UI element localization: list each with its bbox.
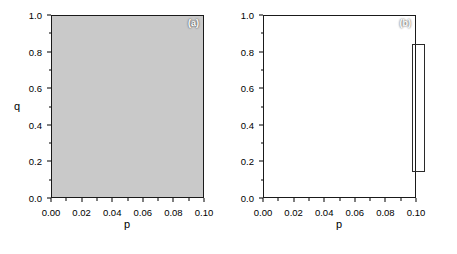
y-tick-minor — [261, 179, 264, 180]
panel-a-contour-map — [52, 16, 203, 197]
x-tick-label: 0.02 — [72, 202, 91, 218]
y-tick-mark — [259, 124, 263, 125]
x-tick-minor — [158, 198, 159, 201]
x-tick-label: 0.06 — [346, 202, 365, 218]
x-tick-minor — [308, 198, 309, 201]
y-tick-label: 0.2 — [0, 156, 42, 167]
y-tick-label: 0.6 — [0, 83, 42, 94]
x-tick-minor — [339, 198, 340, 201]
panel-b-contour-map — [264, 16, 415, 197]
y-tick-mark — [47, 15, 51, 16]
y-tick-mark — [47, 88, 51, 89]
x-tick-label: 0.04 — [103, 202, 122, 218]
y-tick-label: 0.8 — [212, 46, 254, 57]
y-tick-label: 1.0 — [0, 10, 42, 21]
y-tick-mark — [259, 161, 263, 162]
y-tick-minor — [49, 69, 52, 70]
x-tick-label: 0.00 — [254, 202, 273, 218]
panel-a-plot-area: (a) — [51, 15, 204, 198]
y-tick-minor — [261, 33, 264, 34]
y-tick-label: 0.2 — [212, 156, 254, 167]
y-tick-minor — [49, 106, 52, 107]
colorbar — [412, 44, 425, 172]
y-tick-minor — [49, 143, 52, 144]
y-tick-minor — [261, 143, 264, 144]
x-tick-label: 0.08 — [164, 202, 183, 218]
x-tick-label: 0.08 — [376, 202, 395, 218]
y-tick-minor — [49, 33, 52, 34]
colorbar-gradient — [412, 44, 425, 172]
y-tick-mark — [47, 161, 51, 162]
x-tick-minor — [370, 198, 371, 201]
y-tick-label: 0.0 — [212, 193, 254, 204]
x-tick-label: 0.10 — [195, 202, 214, 218]
y-tick-label: 0.4 — [212, 119, 254, 130]
panel-b-x-axis-label: p — [336, 218, 342, 230]
x-tick-minor — [96, 198, 97, 201]
y-tick-label: 0.8 — [0, 46, 42, 57]
panel-b: (b) 0.00.20.40.60.81.0 0.000.020.040.060… — [212, 0, 427, 254]
y-tick-minor — [49, 179, 52, 180]
x-tick-minor — [188, 198, 189, 201]
y-tick-mark — [259, 51, 263, 52]
y-tick-label: 0.4 — [0, 119, 42, 130]
x-tick-label: 0.04 — [315, 202, 334, 218]
y-tick-mark — [47, 51, 51, 52]
panel-b-tag: (b) — [400, 18, 412, 28]
x-tick-minor — [127, 198, 128, 201]
x-tick-minor — [278, 198, 279, 201]
y-tick-label: 0.6 — [212, 83, 254, 94]
panel-b-plot-area: (b) — [263, 15, 416, 198]
y-tick-minor — [261, 106, 264, 107]
panel-a-x-axis-label: p — [124, 218, 130, 230]
y-tick-minor — [261, 69, 264, 70]
panel-a-y-axis-label: q — [14, 100, 20, 112]
panel-a-tag: (a) — [188, 18, 199, 28]
y-tick-mark — [259, 15, 263, 16]
y-tick-label: 1.0 — [212, 10, 254, 21]
x-tick-label: 0.02 — [284, 202, 303, 218]
figure-root: (a) 0.00.20.40.60.81.0 0.000.020.040.060… — [0, 0, 457, 254]
y-tick-label: 0.0 — [0, 193, 42, 204]
y-tick-mark — [47, 124, 51, 125]
panel-a: (a) 0.00.20.40.60.81.0 0.000.020.040.060… — [0, 0, 215, 254]
x-tick-minor — [400, 198, 401, 201]
x-tick-label: 0.10 — [407, 202, 426, 218]
x-tick-minor — [66, 198, 67, 201]
y-tick-mark — [259, 88, 263, 89]
x-tick-label: 0.00 — [42, 202, 61, 218]
x-tick-label: 0.06 — [134, 202, 153, 218]
